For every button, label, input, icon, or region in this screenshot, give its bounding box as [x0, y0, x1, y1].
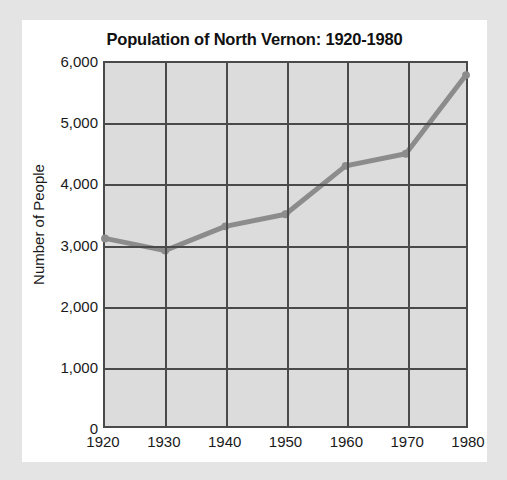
chart-card: Population of North Vernon: 1920-1980 Nu… [22, 20, 487, 462]
data-point-marker [101, 234, 109, 242]
y-axis-tick-label: 4,000 [24, 175, 98, 192]
x-axis-tick-label: 1920 [68, 433, 138, 450]
y-axis-tick-labels: 01,0002,0003,0004,0005,0006,000 [22, 20, 98, 462]
x-axis-tick-label: 1980 [433, 433, 503, 450]
gridline-vertical [226, 63, 228, 426]
x-axis-tick-label: 1960 [311, 433, 381, 450]
gridline-vertical [165, 63, 167, 426]
x-axis-tick-label: 1970 [372, 433, 442, 450]
y-axis-tick-label: 5,000 [24, 114, 98, 131]
gridline-horizontal [105, 368, 466, 370]
x-axis-tick-label: 1950 [251, 433, 321, 450]
x-axis-tick-label: 1930 [129, 433, 199, 450]
y-axis-tick-label: 1,000 [24, 358, 98, 375]
x-axis-tick-label: 1940 [190, 433, 260, 450]
y-axis-tick-label: 2,000 [24, 297, 98, 314]
gridline-horizontal [105, 184, 466, 186]
gridline-horizontal [105, 246, 466, 248]
gridline-horizontal [105, 307, 466, 309]
series-line-population [105, 63, 466, 426]
gridline-vertical [408, 63, 410, 426]
plot-area [103, 61, 468, 428]
series-polyline [105, 75, 466, 250]
chart-page: Population of North Vernon: 1920-1980 Nu… [0, 0, 507, 480]
y-axis-tick-label: 6,000 [24, 53, 98, 70]
gridline-horizontal [105, 123, 466, 125]
y-axis-tick-label: 3,000 [24, 236, 98, 253]
data-point-marker [462, 71, 470, 79]
gridline-vertical [287, 63, 289, 426]
gridline-vertical [347, 63, 349, 426]
